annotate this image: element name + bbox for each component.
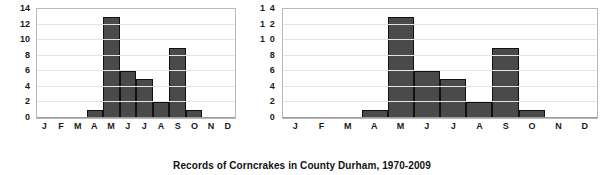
gridline bbox=[37, 55, 235, 56]
y-tick-label: 12 bbox=[20, 19, 30, 28]
x-tick-label: S bbox=[169, 119, 186, 133]
x-tick-label: M bbox=[335, 119, 361, 133]
x-tick-label: A bbox=[153, 119, 170, 133]
x-tick-label: O bbox=[186, 119, 203, 133]
x-axis-left: JFMAMJJASOND bbox=[36, 119, 236, 133]
plot-area-left bbox=[36, 8, 236, 119]
gridline bbox=[283, 39, 597, 40]
bar bbox=[169, 48, 186, 118]
gridline bbox=[37, 101, 235, 102]
corncrake-figure: 02468101214 JFMAMJJASOND 024681 01 21 4 … bbox=[0, 0, 604, 175]
y-tick-label: 1 4 bbox=[260, 4, 276, 13]
gridline bbox=[37, 24, 235, 25]
x-tick-label: A bbox=[86, 119, 103, 133]
y-tick-label: 2 bbox=[270, 97, 276, 106]
y-axis-right: 024681 01 21 4 bbox=[252, 0, 280, 133]
bar bbox=[388, 17, 414, 118]
y-tick-label: 4 bbox=[270, 81, 276, 90]
gridline bbox=[283, 101, 597, 102]
gridline bbox=[283, 86, 597, 87]
bar bbox=[153, 102, 170, 118]
bar bbox=[120, 71, 137, 118]
gridline bbox=[283, 70, 597, 71]
y-tick-label: 10 bbox=[20, 35, 30, 44]
x-tick-label: M bbox=[387, 119, 413, 133]
y-tick-label: 14 bbox=[20, 4, 30, 13]
plot-wrap-left: 02468101214 JFMAMJJASOND bbox=[6, 0, 238, 133]
x-tick-label: J bbox=[414, 119, 440, 133]
x-tick-label: J bbox=[136, 119, 153, 133]
chart-left: 02468101214 JFMAMJJASOND bbox=[6, 0, 238, 133]
bar bbox=[414, 71, 440, 118]
gridline bbox=[283, 24, 597, 25]
gridline bbox=[37, 86, 235, 87]
x-tick-label: J bbox=[440, 119, 466, 133]
y-tick-label: 0 bbox=[270, 113, 276, 122]
bar bbox=[492, 48, 518, 118]
x-axis-right: JFMAMJJASOND bbox=[282, 119, 598, 133]
x-tick-label: O bbox=[519, 119, 545, 133]
x-tick-label: F bbox=[308, 119, 334, 133]
chart-right: 024681 01 21 4 JFMAMJJASOND bbox=[252, 0, 600, 133]
x-tick-label: F bbox=[53, 119, 70, 133]
y-tick-label: 6 bbox=[270, 66, 276, 75]
y-tick-label: 6 bbox=[25, 66, 30, 75]
x-tick-label: A bbox=[466, 119, 492, 133]
y-tick-label: 2 bbox=[25, 97, 30, 106]
x-tick-label: M bbox=[69, 119, 86, 133]
y-axis-left: 02468101214 bbox=[6, 0, 34, 133]
figure-caption: Records of Corncrakes in County Durham, … bbox=[0, 160, 604, 171]
y-tick-label: 4 bbox=[25, 81, 30, 90]
y-tick-label: 1 0 bbox=[260, 35, 276, 44]
x-tick-label: D bbox=[572, 119, 598, 133]
x-tick-label: J bbox=[119, 119, 136, 133]
x-tick-label: J bbox=[36, 119, 53, 133]
bar bbox=[466, 102, 492, 118]
x-tick-label: N bbox=[203, 119, 220, 133]
plot-wrap-right: 024681 01 21 4 JFMAMJJASOND bbox=[252, 0, 600, 133]
y-tick-label: 8 bbox=[270, 50, 276, 59]
gridline bbox=[37, 39, 235, 40]
y-tick-label: 1 2 bbox=[260, 19, 276, 28]
x-tick-label: D bbox=[219, 119, 236, 133]
x-tick-label: M bbox=[103, 119, 120, 133]
y-tick-label: 8 bbox=[25, 50, 30, 59]
x-tick-label: A bbox=[361, 119, 387, 133]
x-tick-label: S bbox=[493, 119, 519, 133]
baseline-right bbox=[283, 117, 597, 118]
gridline bbox=[37, 70, 235, 71]
x-tick-label: N bbox=[545, 119, 571, 133]
baseline-left bbox=[37, 117, 235, 118]
gridline bbox=[283, 55, 597, 56]
plot-area-right bbox=[282, 8, 598, 119]
y-tick-label: 0 bbox=[25, 113, 30, 122]
bar bbox=[103, 17, 120, 118]
x-tick-label: J bbox=[282, 119, 308, 133]
